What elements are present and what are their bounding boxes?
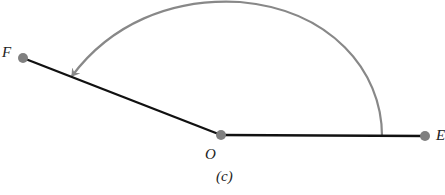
label-o: O	[205, 146, 216, 163]
point-f	[18, 53, 28, 63]
segment-fo	[23, 58, 221, 135]
label-e: E	[436, 127, 445, 144]
point-o	[216, 130, 226, 140]
segment-oe	[221, 135, 425, 136]
label-f: F	[2, 44, 11, 61]
figure-caption: (c)	[216, 168, 233, 185]
point-e	[420, 131, 430, 141]
rotation-arc	[72, 2, 382, 136]
